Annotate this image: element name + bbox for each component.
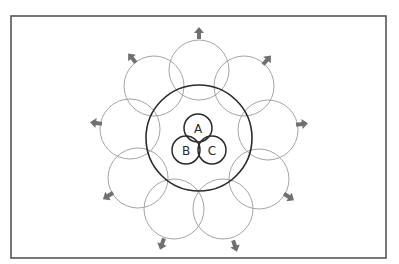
set-label-c: C	[208, 144, 216, 158]
frame-border	[11, 16, 386, 258]
set-label-a: A	[194, 122, 203, 136]
venn-diagram: ABC	[0, 0, 399, 264]
set-label-b: B	[182, 144, 190, 158]
